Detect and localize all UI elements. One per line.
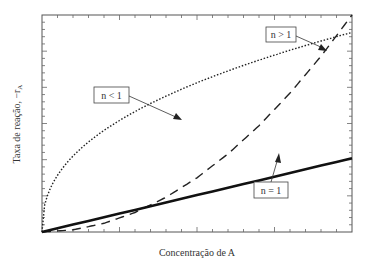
- arrow-head-icon: [275, 153, 281, 163]
- curve-n-less-than-1: [42, 32, 352, 232]
- axis-ticks: [42, 15, 352, 232]
- annotation-n-greater-than-1: n > 1: [266, 27, 327, 51]
- arrow-head-icon: [173, 113, 182, 120]
- reaction-rate-chart: n < 1 n > 1 n = 1 Concentração de A Taxa…: [0, 0, 369, 266]
- plot-frame: [42, 15, 352, 232]
- annotation-label: n < 1: [101, 90, 122, 101]
- y-axis-label: Taxa de reação, −rA: [11, 85, 24, 164]
- annotation-label: n = 1: [261, 185, 282, 196]
- curve-n-equals-1: [42, 158, 352, 232]
- x-axis-label: Concentração de A: [159, 247, 236, 258]
- annotation-n-less-than-1: n < 1: [94, 87, 182, 120]
- annotation-label: n > 1: [271, 29, 292, 40]
- arrow-head-icon: [318, 44, 327, 51]
- curve-n-greater-than-1: [42, 15, 352, 232]
